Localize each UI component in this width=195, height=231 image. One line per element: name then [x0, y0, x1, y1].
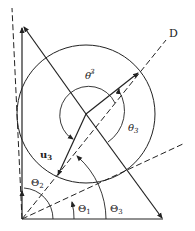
Theta1-arrowhead — [72, 202, 73, 206]
hypotenuse-vector-down — [86, 114, 162, 218]
theta3-arc — [108, 91, 124, 142]
label-theta3-prime: θ′3 — [85, 68, 95, 81]
label-D: D — [169, 27, 178, 40]
label-Theta1: Θ1 — [78, 203, 91, 216]
label-theta3: θ3 — [128, 122, 139, 135]
vector-to-circle — [86, 73, 138, 114]
dashed-line-D — [22, 40, 166, 219]
hypotenuse-vector-up — [24, 27, 86, 114]
label-Theta3: Θ3 — [110, 203, 123, 216]
Theta2-arc — [24, 188, 53, 219]
label-Theta2: Θ2 — [31, 177, 44, 190]
Theta3-arrowhead — [77, 156, 80, 159]
vector-diagram: D θ′3 θ3 u3 Θ2 Θ1 Θ3 — [0, 0, 195, 231]
theta3-arrowhead — [118, 89, 119, 94]
label-u3: u3 — [40, 149, 52, 162]
